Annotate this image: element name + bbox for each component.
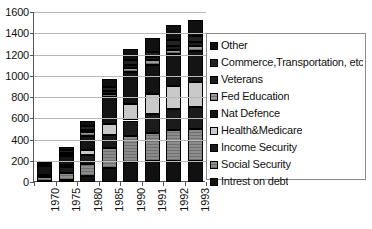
bar-segment-health bbox=[59, 165, 74, 167]
x-axis-ticks bbox=[34, 182, 205, 187]
legend-item-label: Other bbox=[221, 40, 248, 51]
bar-segment-commerce bbox=[188, 36, 203, 42]
bar-segment-vets bbox=[145, 57, 160, 60]
legend-item-label: Social Security bbox=[221, 159, 291, 170]
y-axis-tick bbox=[30, 12, 34, 13]
x-axis-tick bbox=[120, 182, 121, 186]
y-axis-tick-label: 200 bbox=[11, 156, 29, 167]
x-axis-tick-label: 1992 bbox=[179, 188, 190, 212]
bar-segment-other bbox=[80, 121, 95, 126]
x-axis-tick-label: 1980 bbox=[93, 188, 104, 212]
legend-item-label: Income Security bbox=[221, 142, 297, 153]
bar-segment-income bbox=[145, 114, 160, 132]
x-axis-tick-label: 1985 bbox=[114, 188, 125, 212]
bar-segment-defence bbox=[80, 136, 95, 150]
y-axis-labels: 02004006008001000120014001600 bbox=[0, 12, 33, 182]
chart-legend: OtherCommerce,Transportation, etcVeteran… bbox=[206, 33, 366, 180]
bar-segment-fedu bbox=[123, 68, 138, 72]
bar-segment-commerce bbox=[102, 87, 117, 91]
bar-segment-defence bbox=[123, 72, 138, 104]
y-axis-tick-label: 1000 bbox=[5, 71, 29, 82]
legend-item-vets[interactable]: Veterans bbox=[210, 71, 363, 88]
bar-segment-defence bbox=[37, 166, 52, 175]
bar-segment-social bbox=[80, 164, 95, 177]
legend-swatch-icon bbox=[210, 127, 218, 135]
legend-swatch-icon bbox=[210, 110, 218, 118]
bar-segment-commerce bbox=[123, 60, 138, 65]
legend-item-interest[interactable]: Intrest on debt bbox=[210, 173, 363, 190]
bar-segment-interest bbox=[102, 168, 117, 182]
bar-segment-defence bbox=[102, 97, 117, 124]
y-axis-tick-label: 1200 bbox=[5, 50, 29, 61]
bar-1993 bbox=[188, 20, 203, 182]
legend-item-commerce[interactable]: Commerce,Transportation, etc bbox=[210, 54, 363, 71]
legend-swatch-icon bbox=[210, 144, 218, 152]
bar-segment-income bbox=[102, 135, 117, 149]
bar-segment-social bbox=[37, 177, 52, 180]
bar-segment-commerce bbox=[80, 126, 95, 130]
bar-segment-social bbox=[166, 130, 181, 160]
legend-swatch-icon bbox=[210, 93, 218, 101]
legend-item-health[interactable]: Health&Medicare bbox=[210, 122, 363, 139]
y-axis-tick-label: 1400 bbox=[5, 28, 29, 39]
x-axis-tick bbox=[56, 182, 57, 186]
x-axis-tick-label: 1993 bbox=[200, 188, 211, 212]
legend-item-fedu[interactable]: Fed Education bbox=[210, 88, 363, 105]
y-axis-tick-label: 800 bbox=[11, 92, 29, 103]
bar-segment-income bbox=[166, 109, 181, 130]
bar-segment-social bbox=[102, 148, 117, 168]
y-axis-tick bbox=[30, 140, 34, 141]
legend-item-social[interactable]: Social Security bbox=[210, 156, 363, 173]
x-axis-tick bbox=[142, 182, 143, 186]
x-axis-tick bbox=[77, 182, 78, 186]
legend-swatch-icon bbox=[210, 178, 218, 186]
bar-segment-health bbox=[80, 150, 95, 155]
bar-segment-vets bbox=[123, 65, 138, 68]
legend-item-income[interactable]: Income Security bbox=[210, 139, 363, 156]
gridline bbox=[34, 97, 206, 98]
legend-swatch-icon bbox=[210, 161, 218, 169]
legend-item-other[interactable]: Other bbox=[210, 37, 363, 54]
bar-segment-interest bbox=[123, 162, 138, 182]
bar-segment-social bbox=[188, 129, 203, 161]
y-axis-tick bbox=[30, 55, 34, 56]
legend-item-defence[interactable]: Nat Defence bbox=[210, 105, 363, 122]
y-axis-tick-label: 600 bbox=[11, 113, 29, 124]
legend-item-label: Veterans bbox=[221, 74, 263, 85]
x-axis-tick-label: 1990 bbox=[136, 188, 147, 212]
x-axis-tick-label: 1970 bbox=[50, 188, 61, 212]
legend-item-label: Health&Medicare bbox=[221, 125, 302, 136]
bar-segment-commerce bbox=[59, 150, 74, 152]
bar-1992 bbox=[166, 25, 181, 182]
bar-segment-vets bbox=[80, 130, 95, 132]
gridline bbox=[34, 76, 206, 77]
bar-segment-income bbox=[59, 167, 74, 172]
bar-segment-defence bbox=[188, 51, 203, 82]
x-axis-tick bbox=[206, 182, 207, 186]
y-axis-tick bbox=[30, 97, 34, 98]
gridline bbox=[34, 12, 206, 13]
bar-segment-fedu bbox=[59, 154, 74, 156]
x-axis-tick bbox=[185, 182, 186, 186]
legend-item-label: Nat Defence bbox=[221, 108, 280, 119]
bar-segment-commerce bbox=[166, 40, 181, 46]
plot-area bbox=[33, 12, 205, 182]
y-axis-tick-label: 1600 bbox=[5, 7, 29, 18]
bar-segment-social bbox=[59, 173, 74, 180]
y-axis-tick-label: 0 bbox=[23, 177, 29, 188]
legend-item-label: Fed Education bbox=[221, 91, 289, 102]
bar-segment-other bbox=[59, 147, 74, 151]
y-axis-tick bbox=[30, 33, 34, 34]
bar-segment-income bbox=[123, 121, 138, 137]
y-axis-tick-label: 400 bbox=[11, 135, 29, 146]
legend-swatch-icon bbox=[210, 59, 218, 67]
legend-item-label: Intrest on debt bbox=[221, 176, 288, 187]
x-axis-labels: 19701975198019851990199119921993 bbox=[34, 188, 205, 228]
x-axis-tick-label: 1975 bbox=[71, 188, 82, 212]
x-axis-tick bbox=[99, 182, 100, 186]
legend-item-label: Commerce,Transportation, etc bbox=[221, 57, 363, 68]
bar-segment-other bbox=[102, 79, 117, 87]
y-axis-tick bbox=[30, 161, 34, 162]
bar-segment-fedu bbox=[188, 46, 203, 51]
gridline bbox=[34, 33, 206, 34]
